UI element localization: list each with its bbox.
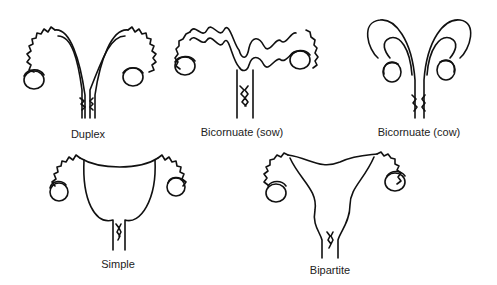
diagram-canvas — [0, 0, 497, 285]
label-bicornuate-sow: Bicornuate (sow) — [201, 126, 284, 138]
label-bipartite: Bipartite — [310, 264, 350, 276]
label-duplex: Duplex — [71, 128, 105, 140]
simple-uterus-drawing — [50, 155, 186, 250]
bipartite-uterus-drawing — [264, 152, 405, 258]
bicornuate-cow-drawing — [368, 20, 471, 118]
label-bicornuate-cow: Bicornuate (cow) — [378, 126, 461, 138]
duplex-uterus-drawing — [24, 27, 156, 118]
bicornuate-sow-drawing — [175, 27, 318, 118]
label-simple: Simple — [101, 258, 135, 270]
